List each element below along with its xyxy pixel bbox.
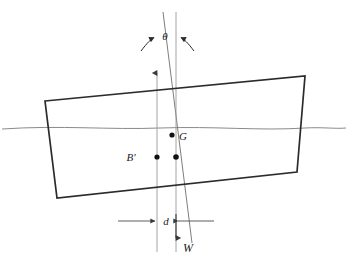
point-G	[169, 132, 174, 137]
heel-angle-arc-right	[181, 38, 194, 52]
point-buoyancy-lower	[173, 154, 179, 160]
heel-angle-label: θ	[162, 30, 168, 42]
point-G-label: G	[179, 130, 187, 142]
inclined-rectangular-hull	[45, 76, 305, 198]
point-B-prime	[154, 154, 159, 159]
stability-diagram: θ G B′ d W	[0, 0, 348, 260]
weight-label: W	[183, 241, 194, 255]
point-B-prime-label: B′	[126, 151, 136, 163]
waterline	[2, 127, 346, 129]
righting-arm-label: d	[163, 215, 169, 227]
diagram-canvas: θ G B′ d W	[0, 0, 348, 260]
heel-angle-arc-left	[141, 38, 154, 52]
